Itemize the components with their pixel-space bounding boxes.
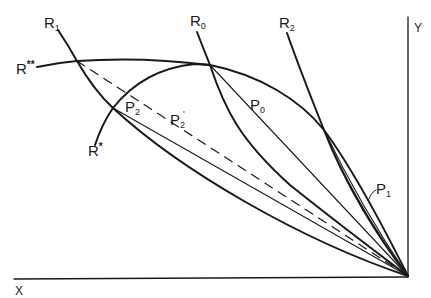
x-axis xyxy=(14,277,408,279)
curve-r-star xyxy=(95,64,210,145)
label-p0: P0 xyxy=(250,96,265,115)
label-x-axis: X xyxy=(15,284,23,298)
label-p1: P1 xyxy=(376,180,391,199)
label-p2-prime: P2' xyxy=(170,109,185,130)
curve-r-double-star xyxy=(37,60,408,276)
line-p1 xyxy=(324,130,408,276)
line-r2-inner xyxy=(324,130,408,276)
label-r1: R1 xyxy=(44,14,60,33)
label-r2: R2 xyxy=(279,14,295,33)
label-r-star: R* xyxy=(88,141,103,159)
line-p0 xyxy=(210,65,408,276)
curve-r1 xyxy=(58,30,408,276)
p1-leader xyxy=(369,190,376,199)
diagram-canvas: R1 R0 R2 R** R* P2 P2' P0 P1 Y X xyxy=(0,0,431,298)
label-r0: R0 xyxy=(190,12,206,31)
label-y-axis: Y xyxy=(414,21,422,35)
label-r-double-star: R** xyxy=(16,59,35,77)
